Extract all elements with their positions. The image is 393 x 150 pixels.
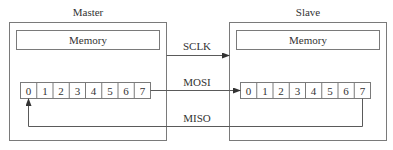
slave-bit-3: 3 bbox=[295, 85, 301, 97]
master-bit-1: 1 bbox=[42, 85, 48, 97]
miso-label: MISO bbox=[183, 112, 211, 124]
mosi-label: MOSI bbox=[183, 76, 211, 88]
slave-bit-6: 6 bbox=[343, 85, 349, 97]
master-shift-register: 0 1 2 3 4 5 6 7 bbox=[21, 83, 151, 99]
slave-bit-1: 1 bbox=[262, 85, 268, 97]
master-bit-4: 4 bbox=[91, 85, 97, 97]
slave-bit-7: 7 bbox=[360, 85, 366, 97]
master-title: Master bbox=[73, 6, 104, 18]
master-bit-2: 2 bbox=[58, 85, 64, 97]
slave-bit-5: 5 bbox=[327, 85, 333, 97]
slave-bit-4: 4 bbox=[311, 85, 317, 97]
master-bit-0: 0 bbox=[26, 85, 32, 97]
slave-bit-2: 2 bbox=[278, 85, 284, 97]
master-bit-3: 3 bbox=[75, 85, 81, 97]
slave-shift-register: 0 1 2 3 4 5 6 7 bbox=[241, 83, 371, 99]
sclk-label: SCLK bbox=[183, 40, 211, 52]
slave-memory-label: Memory bbox=[289, 34, 327, 46]
slave-bit-0: 0 bbox=[246, 85, 252, 97]
master-bit-6: 6 bbox=[123, 85, 129, 97]
master-memory-label: Memory bbox=[69, 34, 107, 46]
master-bit-5: 5 bbox=[107, 85, 113, 97]
master-bit-7: 7 bbox=[140, 85, 146, 97]
slave-title: Slave bbox=[296, 6, 321, 18]
spi-diagram: Master Memory 0 1 2 3 4 5 6 7 Slave Memo… bbox=[0, 0, 393, 150]
